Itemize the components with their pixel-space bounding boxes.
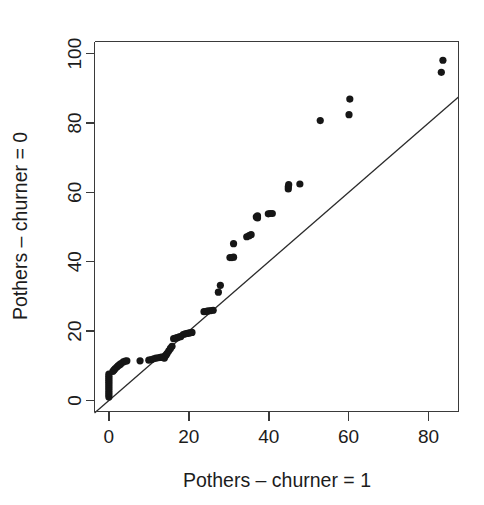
data-point: [345, 111, 352, 118]
data-point: [188, 329, 195, 336]
data-point: [248, 231, 255, 238]
x-tick-label: 0: [104, 426, 115, 447]
data-point: [123, 357, 130, 364]
data-point: [296, 180, 303, 187]
data-point: [136, 357, 143, 364]
y-axis-title: Pothers – churner = 0: [9, 132, 31, 320]
data-point: [168, 343, 175, 350]
identity-reference-line: [95, 97, 459, 413]
x-tick-label: 40: [258, 426, 279, 447]
y-axis-tick-labels: 020406080100: [64, 38, 85, 406]
y-tick-label: 60: [64, 182, 85, 203]
y-tick-label: 100: [64, 38, 85, 70]
data-point: [217, 282, 224, 289]
data-point: [438, 69, 445, 76]
x-tick-label: 80: [418, 426, 439, 447]
data-points-layer: [105, 57, 446, 401]
y-axis-ticks: [86, 54, 95, 401]
qq-plot-figure: 020406080 020406080100 Pothers – churner…: [0, 0, 484, 505]
data-point: [346, 95, 353, 102]
x-tick-label: 60: [338, 426, 359, 447]
x-tick-label: 20: [178, 426, 199, 447]
y-tick-label: 40: [64, 251, 85, 272]
data-point: [317, 117, 324, 124]
data-point: [439, 57, 446, 64]
y-tick-label: 0: [64, 395, 85, 406]
data-point: [269, 210, 276, 217]
data-point: [230, 254, 237, 261]
x-axis-title: Pothers – churner = 1: [183, 469, 371, 491]
y-tick-label: 80: [64, 112, 85, 133]
data-point: [230, 240, 237, 247]
y-tick-label: 20: [64, 320, 85, 341]
data-point: [254, 214, 261, 221]
data-point: [285, 181, 292, 188]
plot-frame: [95, 42, 459, 412]
x-axis-tick-labels: 020406080: [104, 426, 440, 447]
plot-canvas: 020406080 020406080100 Pothers – churner…: [0, 0, 484, 505]
data-point: [210, 307, 217, 314]
x-axis-ticks: [109, 412, 429, 421]
data-point: [215, 289, 222, 296]
